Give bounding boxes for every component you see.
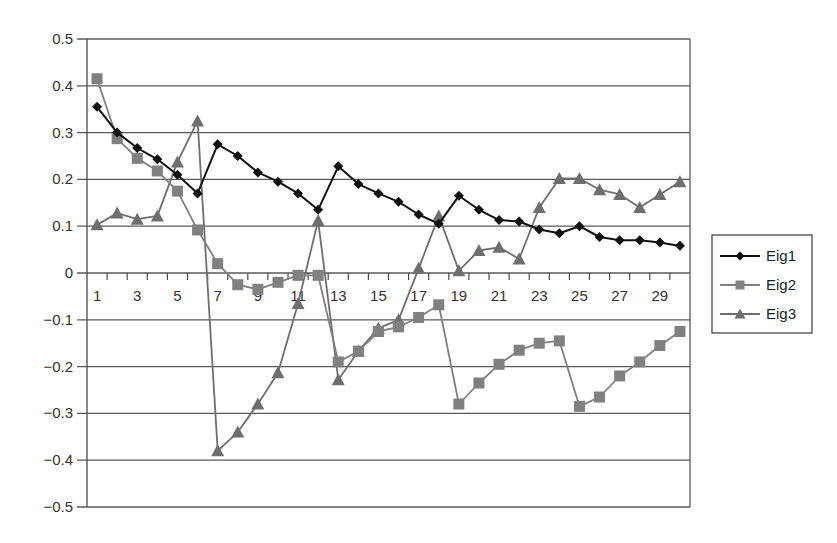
square-marker [393,321,404,332]
triangle-marker [231,426,244,438]
triangle-marker [191,114,204,126]
x-tick-label: 19 [451,287,468,304]
x-tick-label: 21 [491,287,508,304]
y-tick-label: −0.3 [43,404,73,421]
square-marker [654,340,665,351]
y-tick-label: −0.2 [43,358,73,375]
triangle-marker [533,201,546,213]
square-marker [514,345,525,356]
square-marker [172,186,183,197]
triangle-marker [332,373,345,385]
x-tick-label: 5 [173,287,181,304]
square-marker [293,270,304,281]
square-marker [433,299,444,310]
series-line [97,107,680,246]
diamond-marker [554,228,564,238]
y-axis: 0.50.40.30.20.10−0.1−0.2−0.3−0.4−0.5 [43,30,73,515]
gridlines [77,39,690,507]
x-tick-label: 29 [652,287,669,304]
triangle-marker [513,252,526,264]
x-tick-label: 23 [531,287,548,304]
diamond-marker [414,210,424,220]
series-eig2 [92,73,686,412]
square-marker [92,73,103,84]
x-tick-label: 13 [330,287,347,304]
diamond-marker [373,188,383,198]
triangle-marker [271,366,284,378]
square-marker [453,399,464,410]
square-marker [534,338,545,349]
triangle-marker [493,241,506,253]
y-tick-label: 0.2 [52,170,73,187]
series-line [97,79,680,407]
triangle-marker [593,183,606,195]
square-marker [333,356,344,367]
triangle-marker [312,214,325,226]
square-marker [192,224,203,235]
square-icon [736,281,745,290]
x-tick-label: 25 [571,287,588,304]
square-marker [594,392,605,403]
series-line [97,121,680,451]
square-marker [313,270,324,281]
y-tick-label: −0.5 [43,498,73,515]
y-tick-label: 0.1 [52,217,73,234]
triangle-marker [91,218,104,230]
diamond-marker [655,238,665,248]
y-tick-label: −0.1 [43,311,73,328]
square-marker [614,370,625,381]
diamond-marker [615,235,625,245]
square-marker [554,335,565,346]
triangle-marker [653,188,666,200]
square-marker [634,356,645,367]
x-axis: 1357911131517192123252729 [93,273,670,304]
x-tick-label: 1 [93,287,101,304]
x-tick-label: 7 [213,287,221,304]
y-tick-label: −0.4 [43,451,73,468]
legend: Eig1Eig2Eig3 [712,235,812,333]
triangle-marker [673,175,686,187]
y-tick-label: 0.3 [52,124,73,141]
y-tick-label: 0.5 [52,30,73,47]
square-marker [494,359,505,370]
diamond-marker [494,215,504,225]
y-tick-label: 0 [65,264,73,281]
series-eig1 [92,102,685,251]
square-marker [252,284,263,295]
diamond-marker [273,177,283,187]
square-marker [232,279,243,290]
square-marker [473,377,484,388]
square-marker [132,153,143,164]
triangle-marker [251,398,264,410]
square-marker [152,165,163,176]
square-marker [674,326,685,337]
series-layer [91,73,687,456]
diamond-marker [675,241,685,251]
x-tick-label: 27 [611,287,628,304]
legend-box [712,235,812,333]
triangle-marker [111,207,124,219]
line-chart: 0.50.40.30.20.10−0.1−0.2−0.3−0.4−0.5 135… [0,0,837,543]
legend-label: Eig2 [766,276,796,293]
square-marker [373,326,384,337]
x-tick-label: 3 [133,287,141,304]
legend-label: Eig3 [766,305,796,322]
series-eig3 [91,114,687,456]
triangle-marker [171,156,184,168]
triangle-marker [151,209,164,221]
diamond-marker [574,221,584,231]
square-marker [212,258,223,269]
square-marker [574,401,585,412]
x-tick-label: 15 [370,287,387,304]
diamond-marker [394,197,404,207]
square-marker [353,346,364,357]
triangle-marker [633,201,646,213]
x-tick-label: 17 [410,287,427,304]
diamond-marker [635,235,645,245]
legend-label: Eig1 [766,247,796,264]
square-marker [413,312,424,323]
triangle-marker [412,262,425,274]
diamond-marker [514,217,524,227]
diamond-marker [213,139,223,149]
y-tick-label: 0.4 [52,77,73,94]
